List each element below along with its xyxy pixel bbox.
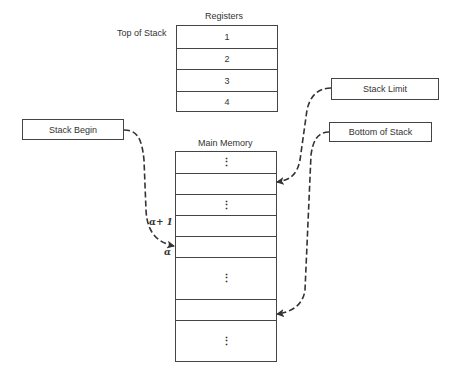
stack-limit-arrow [277, 88, 331, 182]
arrows-layer [0, 0, 449, 378]
stack-begin-arrow [124, 130, 174, 246]
bottom-of-stack-arrow [277, 132, 329, 314]
